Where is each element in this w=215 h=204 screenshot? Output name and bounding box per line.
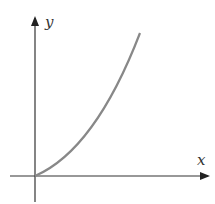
- y-axis-label: y: [44, 13, 54, 31]
- function-graph: y x: [0, 0, 215, 204]
- x-axis-label: x: [197, 151, 206, 169]
- function-curve: [35, 33, 140, 176]
- graph-svg: y x: [0, 0, 215, 204]
